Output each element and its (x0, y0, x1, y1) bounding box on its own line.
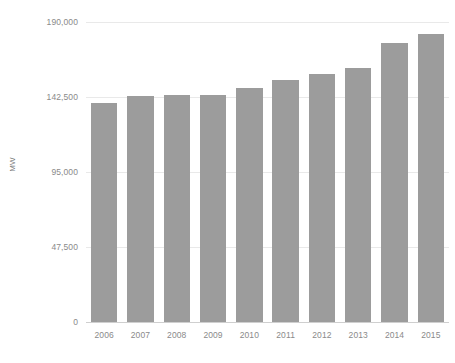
bar[interactable] (127, 96, 153, 322)
x-tick-label: 2009 (195, 330, 231, 340)
bar[interactable] (164, 95, 190, 322)
bar[interactable] (236, 88, 262, 322)
bar[interactable] (309, 74, 335, 322)
x-tick-label: 2013 (340, 330, 376, 340)
bar[interactable] (418, 34, 444, 322)
y-axis-tick-labels: 047,50095,000142,500190,000 (0, 0, 86, 363)
y-tick-label: 47,500 (51, 242, 78, 252)
x-tick-label: 2010 (231, 330, 267, 340)
y-tick-label: 0 (73, 317, 78, 327)
y-tick-label: 95,000 (51, 167, 78, 177)
bar[interactable] (91, 103, 117, 322)
bar[interactable] (200, 95, 226, 322)
x-tick-label: 2011 (268, 330, 304, 340)
x-tick-label: 2006 (86, 330, 122, 340)
gridline-0 (86, 322, 449, 323)
bar-chart: MW 047,50095,000142,500190,000 200620072… (0, 0, 455, 363)
bar[interactable] (272, 80, 298, 322)
x-tick-label: 2012 (304, 330, 340, 340)
x-tick-label: 2014 (376, 330, 412, 340)
x-axis-tick-labels: 2006200720082009201020112012201320142015 (86, 330, 449, 350)
y-tick-label: 142,500 (47, 92, 78, 102)
x-tick-label: 2008 (159, 330, 195, 340)
bar[interactable] (381, 43, 407, 322)
plot-area (86, 22, 449, 322)
x-tick-label: 2015 (413, 330, 449, 340)
x-tick-label: 2007 (122, 330, 158, 340)
bars-layer (86, 22, 449, 322)
y-tick-label: 190,000 (47, 17, 78, 27)
bar[interactable] (345, 68, 371, 322)
